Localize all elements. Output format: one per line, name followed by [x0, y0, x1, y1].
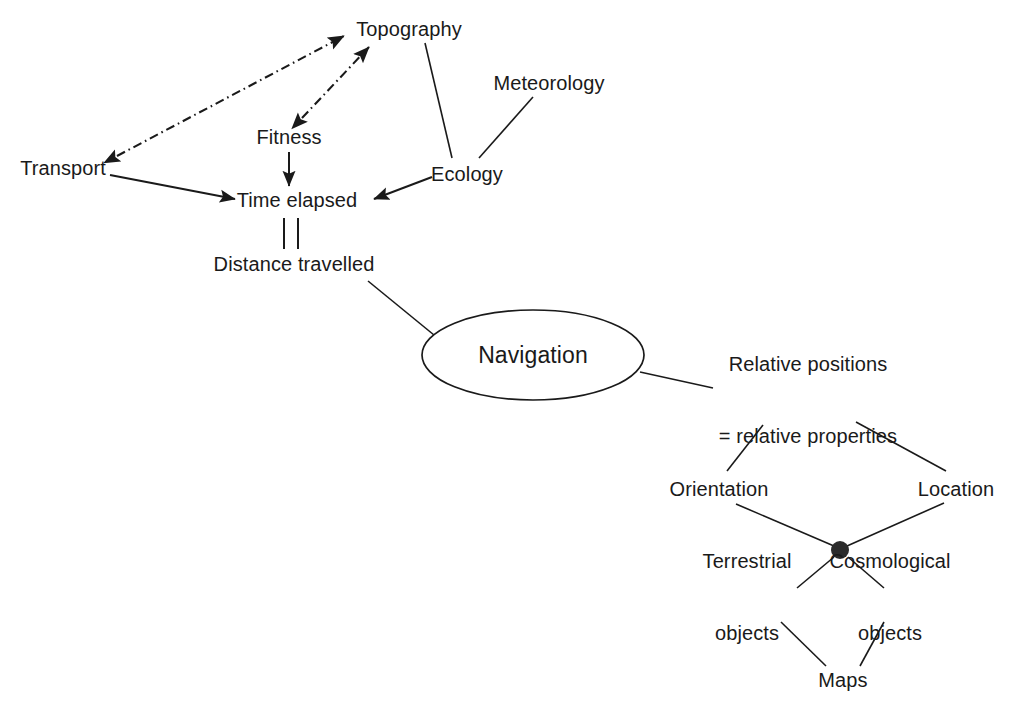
node-relative-positions-line1: Relative positions: [719, 352, 897, 376]
node-time-elapsed: Time elapsed: [237, 189, 358, 212]
node-cosmological-objects: Cosmological objects: [829, 501, 950, 693]
edge-distance-travelled-navigation: [368, 281, 434, 335]
node-cosmological-objects-line1: Cosmological: [829, 549, 950, 573]
edge-fitness-topography: [302, 47, 369, 118]
node-cosmological-objects-line2: objects: [829, 621, 950, 645]
edge-topography-ecology: [425, 43, 452, 158]
node-relative-positions: Relative positions = relative properties: [719, 304, 897, 496]
node-distance-travelled: Distance travelled: [214, 253, 375, 276]
node-meteorology: Meteorology: [493, 72, 604, 95]
node-maps: Maps: [818, 669, 867, 692]
edge-ecology-time-elapsed: [374, 177, 432, 199]
edge-navigation-relative-positions: [640, 372, 713, 388]
edge-transport-time-elapsed: [110, 175, 235, 199]
node-fitness: Fitness: [256, 126, 321, 149]
node-location: Location: [918, 478, 994, 501]
node-relative-positions-line2: = relative properties: [719, 424, 897, 448]
edge-meteorology-ecology: [479, 97, 533, 158]
node-terrestrial-objects-line2: objects: [703, 621, 792, 645]
node-topography: Topography: [356, 18, 462, 41]
node-ecology: Ecology: [431, 163, 503, 186]
node-terrestrial-objects: Terrestrial objects: [703, 501, 792, 693]
node-transport: Transport: [20, 157, 106, 180]
node-terrestrial-objects-line1: Terrestrial: [703, 549, 792, 573]
navigation-concept-diagram: Topography Meteorology Fitness Ecology T…: [0, 0, 1010, 710]
node-navigation: Navigation: [478, 344, 588, 367]
node-orientation: Orientation: [670, 478, 769, 501]
